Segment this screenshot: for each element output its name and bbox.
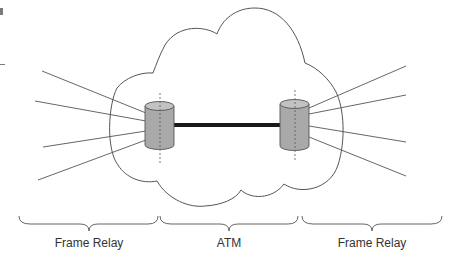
brace-right-frame-relay (302, 216, 442, 231)
left-access-lines (35, 71, 146, 180)
label-frame-relay-left: Frame Relay (55, 236, 124, 250)
scan-artifact-mark (0, 8, 3, 15)
brace-middle-atm (160, 216, 298, 231)
brace-left-frame-relay (19, 216, 158, 231)
left-switch-cylinder (145, 93, 174, 164)
network-diagram (0, 0, 465, 266)
right-access-lines (309, 66, 406, 176)
scan-artifact-dash (0, 64, 5, 65)
right-switch-cylinder (280, 90, 309, 160)
label-frame-relay-right: Frame Relay (338, 236, 407, 250)
label-atm: ATM (217, 236, 241, 250)
